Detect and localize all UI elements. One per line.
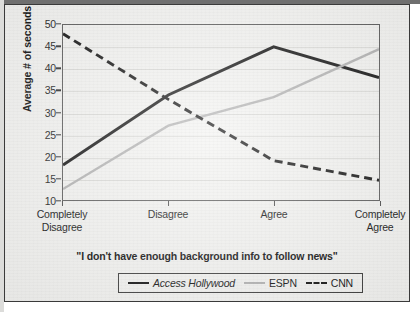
x-axis-tick-label: CompletelyAgree	[325, 208, 420, 233]
series-lines	[63, 25, 379, 200]
y-axis-tick-mark	[56, 45, 61, 46]
x-axis-tick-label-line: Agree	[325, 221, 420, 234]
y-axis-tick-mark	[56, 23, 61, 24]
y-axis-tick-label: 15	[45, 173, 56, 185]
y-axis-tick-label: 20	[45, 151, 56, 163]
y-axis-tick-label: 45	[45, 40, 56, 52]
x-axis-tick-mark	[62, 201, 63, 206]
y-axis-tick-label: 30	[45, 107, 56, 119]
x-axis-tick-mark	[380, 201, 381, 206]
x-axis-tick-label: CompletelyDisagree	[7, 208, 117, 233]
y-axis-tick-mark	[56, 200, 61, 201]
legend-swatch-access-hollywood-icon	[128, 282, 149, 284]
plot-area	[62, 24, 380, 201]
x-axis-tick-label-line: Completely	[325, 208, 420, 221]
x-axis-tick-label-line: Disagree	[113, 208, 223, 221]
y-axis-tick-mark	[56, 178, 61, 179]
scan-top-edge	[0, 0, 420, 4]
legend-swatch-espn-icon	[244, 282, 265, 284]
x-axis-tick-label-line: Completely	[7, 208, 117, 221]
y-axis-tick-label: 35	[45, 84, 56, 96]
y-axis-tick-mark	[56, 112, 61, 113]
y-axis-tick-labels: 101520253035404550	[27, 24, 56, 201]
scan-left-edge	[0, 0, 4, 312]
legend-label: ESPN	[269, 277, 297, 289]
series-line-cnn	[63, 34, 379, 181]
scanned-figure-panel: Average # of seconds 101520253035404550 …	[4, 4, 410, 302]
y-axis-tick-label: 40	[45, 62, 56, 74]
y-axis-tick-label: 50	[45, 18, 56, 30]
legend-item-cnn[interactable]: CNN	[306, 277, 353, 289]
legend-swatch-cnn-icon	[306, 282, 327, 284]
y-axis-tick-mark	[56, 90, 61, 91]
y-axis-tick-mark	[56, 68, 61, 69]
x-axis-tick-label: Agree	[219, 208, 329, 221]
legend-label: CNN	[331, 277, 353, 289]
chart-caption: "I don't have enough background info to …	[5, 250, 409, 262]
chart-legend: Access HollywoodESPNCNN	[118, 273, 363, 293]
x-axis-tick-label: Disagree	[113, 208, 223, 221]
y-axis-tick-label: 25	[45, 129, 56, 141]
legend-label: Access Hollywood	[153, 277, 235, 289]
y-axis-tick-mark	[56, 156, 61, 157]
legend-item-espn[interactable]: ESPN	[244, 277, 297, 289]
x-axis-tick-label-line: Disagree	[7, 221, 117, 234]
y-axis-tick-label: 10	[45, 195, 56, 207]
x-axis-tick-label-line: Agree	[219, 208, 329, 221]
chart-page: Average # of seconds 101520253035404550 …	[0, 0, 420, 312]
x-axis-tick-mark	[274, 201, 275, 206]
y-axis-tick-mark	[56, 134, 61, 135]
x-axis-tick-mark	[168, 201, 169, 206]
legend-item-access-hollywood[interactable]: Access Hollywood	[128, 277, 235, 289]
